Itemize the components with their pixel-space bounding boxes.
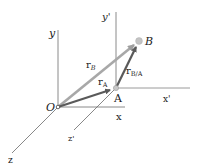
label-x-prime: x'	[163, 94, 171, 104]
point-o	[56, 105, 60, 109]
vectors	[58, 45, 136, 107]
label-r-a: rA	[98, 76, 108, 89]
label-r-b-a: rB/A	[126, 65, 143, 78]
label-r-a-sub: A	[102, 81, 108, 89]
relative-motion-diagram: y y' x x' z z' O A B rB rA rB/A	[0, 0, 197, 166]
label-point-o: O	[46, 101, 55, 114]
label-point-b: B	[144, 35, 153, 48]
label-y-prime: y'	[101, 11, 110, 22]
vector-r-a	[58, 90, 110, 107]
label-r-b: rB	[86, 59, 96, 72]
point-b	[136, 38, 143, 45]
label-r-b-sub: B	[90, 64, 96, 72]
label-z-prime: z'	[68, 134, 74, 143]
label-y: y	[48, 27, 56, 40]
label-point-a: A	[113, 92, 123, 105]
point-a	[113, 85, 118, 90]
label-x: x	[116, 111, 122, 122]
label-z: z	[8, 155, 13, 165]
label-r-b-a-sub: B/A	[131, 70, 143, 78]
